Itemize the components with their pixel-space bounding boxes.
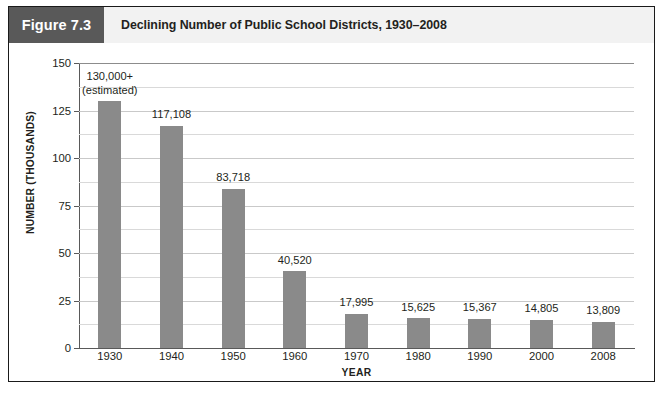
x-axis-tick-label: 1950 xyxy=(221,350,246,362)
bar xyxy=(468,319,491,348)
x-axis-tick-label: 1990 xyxy=(467,350,492,362)
bar-value-label: 40,520 xyxy=(278,254,312,268)
bar xyxy=(98,101,121,348)
y-axis-title: NUMBER (THOUSANDS) xyxy=(25,93,36,253)
bar xyxy=(222,189,245,348)
x-axis-tick-label: 1930 xyxy=(97,350,122,362)
y-axis-tick-mark xyxy=(74,253,79,254)
bar-value-label: 15,625 xyxy=(401,301,435,315)
bar xyxy=(530,320,553,348)
y-axis-tick-label: 100 xyxy=(52,152,71,164)
bar xyxy=(283,271,306,348)
y-axis-tick-mark xyxy=(74,111,79,112)
x-axis-tick-label: 1940 xyxy=(159,350,184,362)
bar xyxy=(160,126,183,349)
bar-value-label: 130,000+(estimated) xyxy=(82,70,138,97)
y-axis-tick-label: 0 xyxy=(65,342,71,354)
y-axis-tick-label: 75 xyxy=(58,200,71,212)
plot-area: 0255075100125150130,000+(estimated)19301… xyxy=(79,63,634,348)
y-axis-tick-mark xyxy=(74,63,79,64)
y-axis-tick-label: 50 xyxy=(58,247,71,259)
gridline-minor xyxy=(79,87,634,88)
gridline-major xyxy=(79,63,634,64)
x-axis-tick-label: 1970 xyxy=(344,350,369,362)
chart-container: NUMBER (THOUSANDS) 0255075100125150130,0… xyxy=(9,7,654,381)
figure-frame: Figure 7.3 Declining Number of Public Sc… xyxy=(8,6,655,382)
x-axis-title: YEAR xyxy=(79,367,634,378)
bar-value-label: 13,809 xyxy=(586,304,620,318)
y-axis-tick-mark xyxy=(74,158,79,159)
bar-value-label: 17,995 xyxy=(340,296,374,310)
bar xyxy=(407,318,430,348)
bar-value-label: 15,367 xyxy=(463,301,497,315)
y-axis-tick-mark xyxy=(74,348,79,349)
bar-value-label: 14,805 xyxy=(525,302,559,316)
x-axis-tick-label: 2000 xyxy=(529,350,554,362)
x-axis-tick-label: 2008 xyxy=(591,350,616,362)
y-axis-tick-label: 125 xyxy=(52,105,71,117)
y-axis-tick-mark xyxy=(74,301,79,302)
bar xyxy=(345,314,368,348)
bar-value-label: 83,718 xyxy=(216,171,250,185)
y-axis-tick-mark xyxy=(74,206,79,207)
x-axis-tick-label: 1960 xyxy=(282,350,307,362)
y-axis-tick-label: 25 xyxy=(58,295,71,307)
bar-value-label: 117,108 xyxy=(152,108,191,122)
bar xyxy=(592,322,615,348)
y-axis-tick-label: 150 xyxy=(52,57,71,69)
x-axis-tick-label: 1980 xyxy=(406,350,431,362)
x-axis-line xyxy=(79,348,635,349)
